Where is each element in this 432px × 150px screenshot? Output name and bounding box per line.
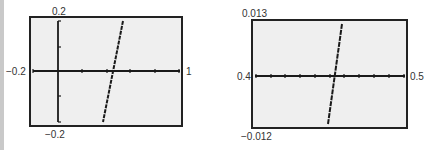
graphing-calculator-screens: 0.2 −0.2 −0.2 1 0.013 −0.012 0.4 0.5 [0, 0, 432, 150]
left-graph: 0.2 −0.2 −0.2 1 [6, 6, 192, 140]
left-y-min-label: −0.2 [45, 129, 65, 140]
left-x-max-label: 1 [186, 66, 192, 77]
right-y-min-label: −0.012 [241, 131, 272, 142]
right-x-min-label: 0.4 [237, 71, 251, 82]
right-x-max-label: 0.5 [410, 71, 424, 82]
right-graph: 0.013 −0.012 0.4 0.5 [237, 8, 424, 142]
right-y-max-label: 0.013 [242, 8, 267, 19]
left-x-min-label: −0.2 [6, 66, 26, 77]
left-y-max-label: 0.2 [52, 6, 66, 17]
